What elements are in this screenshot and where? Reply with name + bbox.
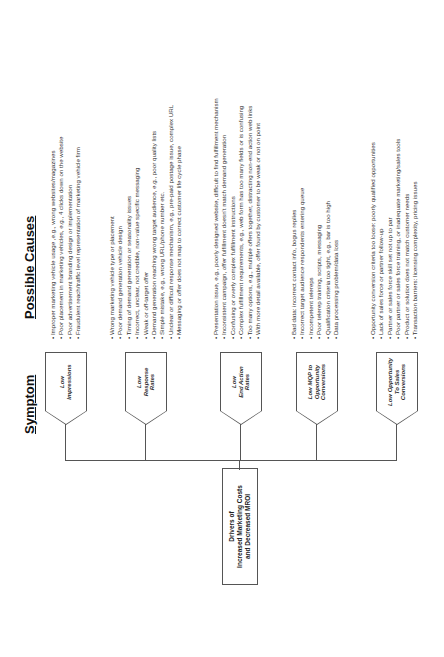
symptom-low-sales-conversions: Low Opportunity To Sales Conversions bbox=[376, 352, 418, 411]
cause-item: Messaging or offer does not map to corre… bbox=[175, 105, 183, 339]
symptom-label: Low End Action Rates bbox=[231, 366, 252, 397]
cause-item: Wrong marketing vehicle type or placemen… bbox=[108, 105, 116, 339]
symptom-header: Symptom bbox=[22, 375, 37, 434]
cause-item: Bad data: incorrect contact info, bogus … bbox=[290, 188, 298, 339]
causes-list-sales: Opportunity conversion criteria too loos… bbox=[369, 139, 419, 339]
cause-item: Product or solution does not match custo… bbox=[403, 139, 411, 339]
symptom-low-end-action-rates: Low End Action Rates bbox=[220, 352, 262, 411]
symptom-low-response-rates: Low Response Rates bbox=[125, 352, 167, 411]
symptom-label: Low Response Rates bbox=[136, 368, 157, 397]
cause-item: Poor telerep training, scripts, messagin… bbox=[315, 188, 323, 339]
cause-item: Fraudulent reach/traffic level represent… bbox=[74, 137, 82, 339]
cause-item: Simple mistake, e.g., wrong URL/phone nu… bbox=[158, 105, 166, 339]
symptom-low-mqp-conversions: Low MQP to Opportunity Conversions bbox=[296, 352, 338, 411]
cause-item: Weak or off-target offer bbox=[142, 105, 150, 339]
symptom-label: Low MQP to Opportunity Conversions bbox=[307, 364, 328, 400]
causes-list-end-action: Presentation issue, e.g., poorly designe… bbox=[212, 98, 262, 339]
causes-list-response: Wrong marketing vehicle type or placemen… bbox=[108, 105, 184, 339]
cause-item: Presentation issue, e.g., poorly designe… bbox=[212, 98, 220, 339]
cause-item: Improper marketing vehicle usage ,e.g., … bbox=[49, 137, 57, 339]
possible-causes-header: Possible Causes bbox=[22, 216, 37, 319]
cause-item: Too many options, e.g., multiple offers … bbox=[246, 98, 254, 339]
causes-list-impressions: Improper marketing vehicle usage ,e.g., … bbox=[49, 137, 83, 339]
cause-item: Poor placement in marketing vehicles, e.… bbox=[57, 137, 65, 339]
cause-item: Demand generation reaching wrong target … bbox=[150, 105, 158, 339]
cause-item: Unclear or difficult response mechanism,… bbox=[167, 105, 175, 339]
cause-item: Incompetent telereps bbox=[307, 188, 315, 339]
cause-item: Opportunity conversion criteria too loos… bbox=[369, 139, 377, 339]
causes-list-mqp: Bad data: incorrect contact info, bogus … bbox=[290, 188, 340, 339]
root-drivers-box: Drivers of Increased Marketing Costs and… bbox=[222, 468, 258, 585]
cause-item: Data processing problem/data loss bbox=[332, 188, 340, 339]
cause-item: Partner or sales force skill set not up … bbox=[386, 139, 394, 339]
cause-item: Timing of demand generation or seasonali… bbox=[125, 105, 133, 339]
cause-item: Poor demand generation vehicle design bbox=[116, 105, 124, 339]
symptom-label: Low Impressions bbox=[59, 364, 73, 399]
cause-item: With more detail available, offer found … bbox=[254, 98, 262, 339]
cause-item: Confusing or overly complex fulfillment … bbox=[229, 98, 237, 339]
cause-item: Complex fulfillment requirements, e.g., … bbox=[237, 98, 245, 339]
trunk-line bbox=[65, 460, 397, 461]
cause-item: Qualification criteria too tight, e.g., … bbox=[324, 188, 332, 339]
symptom-low-impressions: Low Impressions bbox=[45, 352, 87, 411]
root-connector-line bbox=[239, 460, 240, 470]
cause-item: Lack of sales force or partner follow-up bbox=[377, 139, 385, 339]
cause-item: Incorrect, unclear, not credible, non-va… bbox=[133, 105, 141, 339]
cause-item: Inconsistent campaign, offer fulfillment… bbox=[220, 98, 228, 339]
diagram-canvas: Symptom Possible Causes Drivers of Incre… bbox=[0, 0, 444, 657]
cause-item: Transaction barriers: licensing complexi… bbox=[411, 139, 419, 339]
cause-item: Incorrect target audience respondents en… bbox=[298, 188, 306, 339]
cause-item: Poor partner or sales force training, or… bbox=[394, 139, 402, 339]
symptom-label: Low Opportunity To Sales Conversions bbox=[387, 358, 408, 406]
root-label: Drivers of Increased Marketing Costs and… bbox=[228, 485, 251, 568]
cause-item: Poor advertisement branding design or im… bbox=[66, 137, 74, 339]
